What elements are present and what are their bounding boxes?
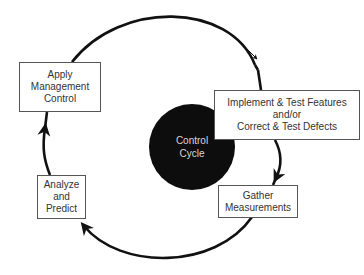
arrow-analyze-to-apply bbox=[44, 128, 50, 175]
node-label: and bbox=[53, 191, 70, 203]
node-apply-management-control: Apply Management Control bbox=[19, 62, 101, 112]
node-label: Predict bbox=[46, 203, 77, 215]
node-label: Control bbox=[44, 93, 76, 105]
arrow-gather-to-analyze bbox=[84, 217, 252, 258]
node-label: and/or bbox=[273, 109, 301, 121]
arrow-apply-to-implement bbox=[72, 17, 255, 65]
node-label: Correct & Test Defects bbox=[237, 121, 337, 133]
node-label: Analyze bbox=[44, 179, 80, 191]
node-implement-and-test: Implement & Test Features and/or Correct… bbox=[214, 90, 360, 140]
node-label: Implement & Test Features bbox=[227, 97, 346, 109]
center-label-line2: Cycle bbox=[179, 147, 204, 160]
node-label: Measurements bbox=[225, 202, 291, 214]
node-label: Gather bbox=[243, 190, 274, 202]
node-gather-measurements: Gather Measurements bbox=[218, 185, 298, 218]
node-analyze-and-predict: Analyze and Predict bbox=[37, 175, 86, 219]
node-label: Management bbox=[31, 81, 89, 93]
center-label-line1: Control bbox=[176, 134, 208, 147]
arrow-implement-to-gather bbox=[275, 140, 280, 178]
node-label: Apply bbox=[47, 69, 72, 81]
